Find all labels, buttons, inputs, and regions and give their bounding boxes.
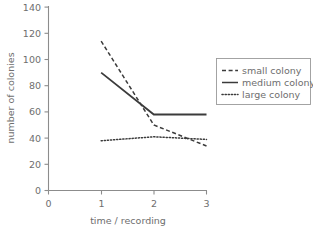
y-axis-ticks [45, 7, 49, 190]
chart-canvas: 0 20 40 60 80 100 120 140 0 1 2 3 time /… [0, 0, 313, 231]
x-axis-ticks [49, 191, 207, 195]
x-axis-title: time / recording [90, 215, 166, 226]
y-tick-label-20: 20 [29, 159, 41, 170]
x-tick-label-3: 3 [203, 198, 209, 209]
x-tick-label-0: 0 [45, 198, 51, 209]
y-tick-label-80: 80 [29, 80, 41, 91]
chart-legend: small colony medium colony large colony [217, 59, 314, 105]
y-tick-label-60: 60 [29, 106, 41, 117]
legend-label-small-colony: small colony [242, 65, 302, 76]
y-axis-title: number of colonies [5, 52, 16, 143]
legend-label-large-colony: large colony [242, 89, 301, 100]
y-tick-label-40: 40 [29, 133, 41, 144]
y-tick-label-140: 140 [23, 2, 41, 13]
series-line-medium-colony [101, 73, 206, 115]
y-tick-label-120: 120 [23, 28, 41, 39]
legend-label-medium-colony: medium colony [242, 77, 313, 88]
colony-count-line-chart: 0 20 40 60 80 100 120 140 0 1 2 3 time /… [0, 0, 313, 231]
y-tick-label-100: 100 [23, 54, 41, 65]
x-tick-label-2: 2 [151, 198, 157, 209]
series-line-small-colony [101, 41, 206, 146]
y-tick-label-0: 0 [35, 185, 41, 196]
series-group [101, 41, 206, 146]
x-tick-label-1: 1 [98, 198, 104, 209]
